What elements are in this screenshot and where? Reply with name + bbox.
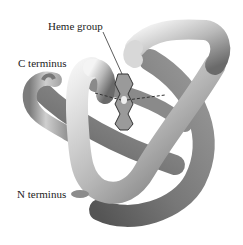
c-terminus-label: C terminus	[18, 57, 67, 69]
protein-diagram: Heme group C terminus N terminus	[0, 0, 243, 245]
heme-group-label: Heme group	[48, 20, 103, 32]
n-terminus-tube	[71, 190, 89, 198]
n-terminus-label: N terminus	[17, 188, 66, 200]
protein-tube-drawing	[0, 0, 243, 245]
